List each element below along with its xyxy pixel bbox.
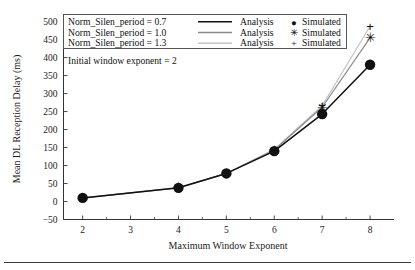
y-tick-label: 450: [43, 35, 58, 45]
y-tick-label: 350: [43, 71, 58, 81]
x-tick-label: 4: [176, 225, 181, 235]
annotation-initial-window-exponent: Initial window exponent = 2: [68, 55, 177, 66]
legend-analysis-label: Analysis: [240, 27, 274, 38]
figure-container: −50050100150200250300350400450500 234567…: [0, 0, 415, 270]
y-tick-label: 50: [48, 179, 58, 189]
marker-plus: +: [366, 19, 374, 34]
legend-simulated-label: Simulated: [302, 16, 341, 27]
legend-marker-glyph: ●: [291, 17, 297, 28]
legend-series-name: Norm_Silen_period = 0.7: [68, 16, 167, 27]
marker-circle: [365, 60, 375, 70]
legend-series-name: Norm_Silen_period = 1.3: [68, 37, 167, 48]
legend-analysis-label: Analysis: [240, 16, 274, 27]
marker-plus: +: [270, 142, 278, 157]
y-tick-label: 500: [43, 17, 58, 27]
x-axis-title: Maximum Window Exponent: [169, 240, 288, 251]
legend-series-name: Norm_Silen_period = 1.0: [68, 27, 167, 38]
y-tick-label: 200: [43, 125, 58, 135]
y-tick-label: 0: [53, 197, 58, 207]
legend: Norm_Silen_period = 0.7Analysis●Simulate…: [64, 15, 347, 50]
y-tick-label: 150: [43, 143, 58, 153]
x-tick-label: 8: [368, 225, 373, 235]
y-tick-label: 400: [43, 53, 58, 63]
marker-plus: +: [318, 98, 326, 113]
x-tick-label: 5: [224, 225, 229, 235]
marker-plus: +: [79, 190, 87, 205]
y-tick-label: −50: [43, 215, 58, 225]
x-tick-label: 2: [80, 225, 85, 235]
legend-analysis-label: Analysis: [240, 37, 274, 48]
marker-plus: +: [223, 166, 231, 181]
legend-marker-glyph: ✳: [290, 27, 298, 38]
chart-plot: −50050100150200250300350400450500 234567…: [0, 0, 415, 270]
y-tick-label: 100: [43, 161, 58, 171]
x-tick-label: 3: [128, 225, 133, 235]
y-tick-label: 250: [43, 107, 58, 117]
x-tick-label: 7: [320, 225, 325, 235]
y-axis-title: Mean DL Reception Delay (ms): [11, 55, 23, 183]
x-axis-ticks: 2345678: [80, 216, 372, 235]
y-tick-label: 300: [43, 89, 58, 99]
legend-simulated-label: Simulated: [302, 37, 341, 48]
legend-marker-glyph: +: [291, 38, 296, 49]
legend-simulated-label: Simulated: [302, 27, 341, 38]
marker-plus: +: [175, 180, 183, 195]
x-tick-label: 6: [272, 225, 277, 235]
